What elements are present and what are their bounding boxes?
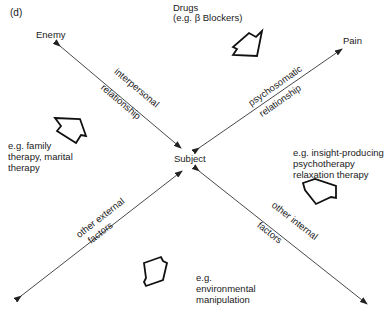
family-therapy-label-3: therapy xyxy=(8,162,40,173)
psychotherapy-label-2: psychotherapy xyxy=(293,158,355,169)
node-enemy: Enemy xyxy=(36,29,66,40)
node-subject: Subject xyxy=(174,153,206,164)
psychotherapy-block-arrow xyxy=(303,179,336,204)
family-therapy-label-1: e.g. family xyxy=(8,140,51,151)
environmental-manipulation-block-arrow xyxy=(144,257,167,286)
node-pain: Pain xyxy=(343,35,362,46)
family-therapy-label-2: therapy, marital xyxy=(8,151,73,162)
drugs-example-label: (e.g. β Blockers) xyxy=(173,12,242,23)
environmental-label-1: e.g. xyxy=(196,272,212,283)
psychosomatic-relationship-arrow xyxy=(199,49,342,148)
environmental-label-2: environmental xyxy=(196,283,256,294)
family-therapy-block-arrow xyxy=(55,118,86,143)
environmental-label-3: manipulation xyxy=(196,294,250,305)
psychotherapy-label-1: e.g. insight-producing xyxy=(293,147,384,158)
psychotherapy-label-3: relaxation therapy xyxy=(293,169,369,180)
subject-relationship-diagram: (d) Enemy Pain Subject Drugs (e.g. β Blo… xyxy=(0,0,390,314)
drugs-intervention-block-arrow xyxy=(233,31,262,56)
panel-label: (d) xyxy=(10,7,22,18)
